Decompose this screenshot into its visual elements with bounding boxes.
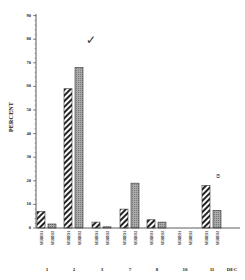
y-tick-label: 30 — [17, 154, 31, 159]
series-bar-label: SERIES1 — [204, 231, 209, 245]
series-bar-label: SERIES2 — [105, 231, 110, 245]
series-bar-label: SERIES1 — [94, 231, 99, 245]
y-tick-label: 70 — [17, 60, 31, 65]
y-axis — [33, 16, 36, 228]
x-month-label: 1 — [40, 267, 54, 272]
bar-hatched — [37, 211, 45, 228]
series-bar-label: SERIES1 — [122, 231, 127, 245]
handwritten-annotation: ɞ — [216, 170, 220, 180]
bar-hatched — [147, 220, 155, 228]
y-tick-label: 50 — [17, 107, 31, 112]
y-axis-label: PERCENT — [8, 102, 14, 132]
bar-gray — [48, 224, 56, 228]
series-bar-label: SERIES1 — [149, 231, 154, 245]
series-bar-label: SERIES2 — [50, 231, 55, 245]
series-bar-label: SERIES2 — [133, 231, 138, 245]
x-month-label: 11 — [205, 267, 219, 272]
series-bar-label: SERIES2 — [188, 231, 193, 245]
y-tick-label: 90 — [17, 13, 31, 18]
y-tick-label: 40 — [17, 131, 31, 136]
x-month-label: DEC — [225, 267, 239, 272]
x-month-label: 2 — [67, 267, 81, 272]
y-tick-label: 80 — [17, 36, 31, 41]
x-month-label: 7 — [123, 267, 137, 272]
bar-gray — [75, 68, 83, 228]
series-bar-label: SERIES2 — [77, 231, 82, 245]
series-bar-label: SERIES2 — [160, 231, 165, 245]
series-bar-label: SERIES1 — [66, 231, 71, 245]
bar-hatched — [64, 89, 72, 228]
bar-hatched — [120, 209, 128, 228]
y-tick-label: 20 — [17, 178, 31, 183]
x-month-label: 3 — [95, 267, 109, 272]
bar-hatched — [202, 186, 210, 228]
series-bar-label: SERIES1 — [39, 231, 44, 245]
x-month-label: 10 — [178, 267, 192, 272]
y-tick-label: 60 — [17, 83, 31, 88]
bar-gray — [158, 222, 166, 228]
bar-gray — [131, 183, 139, 228]
y-tick-label: 10 — [17, 201, 31, 206]
bar-hatched — [92, 222, 100, 228]
y-tick-label: 0 — [17, 225, 31, 230]
bar-chart: 0102030405060708090 PERCENT 123781011DEC… — [0, 0, 245, 280]
series-bar-label: SERIES2 — [215, 231, 220, 245]
x-month-label: 8 — [150, 267, 164, 272]
bar-gray — [213, 210, 221, 228]
checkmark-annotation: ✓ — [86, 33, 96, 48]
bars-group — [37, 68, 221, 228]
series-bar-label: SERIES1 — [177, 231, 182, 245]
